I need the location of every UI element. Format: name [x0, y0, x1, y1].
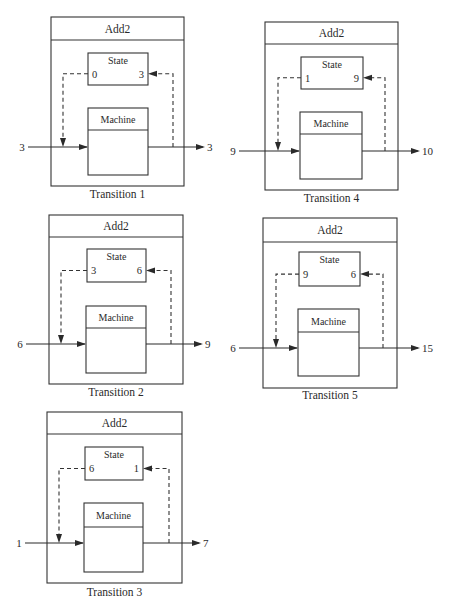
state-to-input-arrowhead	[56, 534, 62, 543]
state-old-value: 6	[89, 463, 94, 474]
transition-caption: Transition 4	[304, 192, 360, 204]
state-new-value: 1	[134, 463, 139, 474]
input-arrowhead	[79, 144, 88, 150]
input-arrowhead	[291, 148, 300, 154]
state-new-value: 3	[139, 69, 144, 80]
machine-title: Machine	[96, 510, 132, 521]
add2-outer-box	[47, 412, 182, 583]
machine-title: Machine	[101, 114, 137, 125]
input-value-label: 1	[16, 537, 22, 549]
state-title: State	[104, 449, 125, 460]
output-to-state-dashed-line	[368, 274, 383, 348]
add2-title: Add2	[102, 417, 128, 429]
input-value-label: 9	[230, 145, 236, 157]
machine-title: Machine	[99, 312, 135, 323]
state-old-value: 1	[305, 73, 310, 84]
output-to-state-dashed-line	[156, 74, 173, 147]
state-to-input-arrowhead	[275, 142, 281, 151]
add2-outer-box	[49, 215, 183, 384]
transition-2-diagram: Add2State36Machine69Transition 2	[17, 215, 211, 398]
add2-outer-box	[265, 22, 398, 190]
transition-caption: Transition 2	[88, 386, 144, 398]
state-to-input-dashed-line	[59, 468, 85, 535]
output-value-label: 9	[205, 338, 211, 350]
add2-title: Add2	[319, 27, 345, 39]
add2-outer-box	[263, 218, 397, 388]
state-new-value: 9	[354, 73, 359, 84]
output-to-state-arrowhead	[143, 465, 152, 471]
state-to-input-dashed-line	[278, 78, 301, 143]
output-arrowhead	[411, 345, 420, 351]
transition-3-diagram: Add2State61Machine17Transition 3	[16, 412, 209, 598]
state-old-value: 3	[91, 265, 96, 276]
add2-title: Add2	[317, 224, 343, 236]
add2-title: Add2	[103, 220, 129, 232]
output-to-state-dashed-line	[371, 78, 385, 151]
transition-5-diagram: Add2State96Machine615Transition 5	[230, 218, 433, 401]
add2-transitions-figure: Add2State03Machine33Transition 1Add2Stat…	[0, 0, 449, 606]
input-arrowhead	[75, 540, 84, 546]
state-to-input-arrowhead	[273, 339, 279, 348]
state-title: State	[322, 59, 343, 70]
state-title: State	[108, 55, 129, 66]
output-value-label: 10	[422, 145, 434, 157]
add2-title: Add2	[105, 23, 131, 35]
figure-canvas: Add2State03Machine33Transition 1Add2Stat…	[0, 0, 449, 606]
output-to-state-arrowhead	[148, 71, 157, 77]
add2-outer-box	[51, 17, 184, 186]
state-to-input-dashed-line	[63, 74, 88, 139]
output-to-state-arrowhead	[360, 271, 369, 277]
transition-caption: Transition 3	[87, 586, 143, 598]
output-arrowhead	[411, 148, 420, 154]
output-arrowhead	[194, 341, 203, 347]
output-arrowhead	[196, 144, 205, 150]
machine-title: Machine	[311, 316, 347, 327]
transition-caption: Transition 5	[302, 389, 358, 401]
state-to-input-arrowhead	[58, 335, 64, 344]
output-value-label: 15	[422, 342, 434, 354]
output-value-label: 7	[203, 537, 209, 549]
input-value-label: 6	[17, 338, 23, 350]
state-title: State	[320, 254, 341, 265]
output-to-state-dashed-line	[154, 270, 171, 344]
output-to-state-arrowhead	[363, 75, 372, 81]
output-value-label: 3	[207, 141, 213, 153]
transition-1-diagram: Add2State03Machine33Transition 1	[19, 17, 213, 200]
state-new-value: 6	[351, 269, 356, 280]
state-to-input-arrowhead	[60, 138, 66, 147]
output-to-state-dashed-line	[151, 468, 169, 543]
input-value-label: 6	[230, 342, 236, 354]
transition-caption: Transition 1	[90, 188, 146, 200]
machine-title: Machine	[314, 118, 350, 129]
state-old-value: 9	[303, 269, 308, 280]
input-arrowhead	[77, 341, 86, 347]
state-old-value: 0	[92, 69, 97, 80]
output-arrowhead	[192, 540, 201, 546]
state-new-value: 6	[137, 265, 142, 276]
input-arrowhead	[289, 345, 298, 351]
state-title: State	[107, 251, 128, 262]
output-to-state-arrowhead	[146, 267, 155, 273]
state-to-input-dashed-line	[276, 274, 299, 340]
state-to-input-dashed-line	[61, 270, 87, 336]
input-value-label: 3	[19, 141, 25, 153]
transition-4-diagram: Add2State19Machine910Transition 4	[230, 22, 433, 204]
